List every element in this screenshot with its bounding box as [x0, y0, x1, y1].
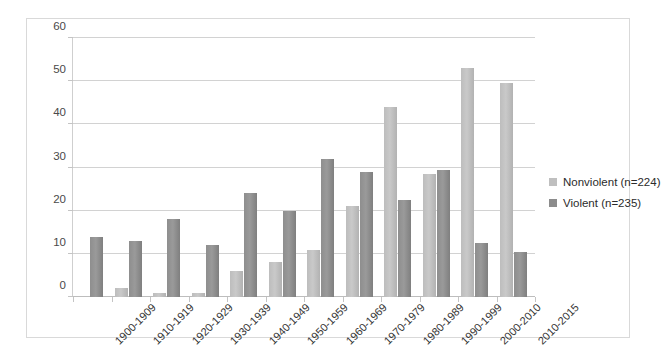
y-axis-tick-label: 60 [53, 20, 66, 32]
bar-nonviolent[interactable] [500, 83, 513, 297]
y-axis-tick-label: 0 [60, 279, 66, 291]
y-axis-tick-label: 20 [53, 193, 66, 205]
bar-violent[interactable] [437, 170, 450, 297]
y-axis-tick-label: 50 [53, 63, 66, 75]
chart-frame: 0102030405060 1900-19091910-19191920-192… [26, 18, 630, 338]
legend-item-label: Nonviolent (n=224) [563, 176, 661, 188]
x-axis-tick-label: 1970-1979 [382, 301, 428, 347]
bar-nonviolent[interactable] [230, 271, 243, 297]
legend-item[interactable]: Nonviolent (n=224) [549, 176, 661, 188]
bar-violent[interactable] [244, 193, 257, 297]
bar-nonviolent[interactable] [307, 250, 320, 297]
bar-violent[interactable] [360, 172, 373, 297]
y-axis-tick-label: 10 [53, 236, 66, 248]
bar-violent[interactable] [129, 241, 142, 297]
x-axis-tick-label: 1930-1939 [228, 301, 274, 347]
bar-nonviolent[interactable] [346, 206, 359, 297]
bar-nonviolent[interactable] [153, 293, 166, 297]
bar-group[interactable] [112, 38, 151, 297]
y-axis-tick-label: 40 [53, 106, 66, 118]
bar-group[interactable] [227, 38, 266, 297]
bar-violent[interactable] [167, 219, 180, 297]
x-axis-labels: 1900-19091910-19191920-19291930-19391940… [73, 301, 535, 358]
bars-layer [73, 38, 535, 297]
bar-group[interactable] [343, 38, 382, 297]
plot-area: 0102030405060 [73, 38, 535, 297]
legend-item-label: Violent (n=235) [563, 197, 641, 209]
bar-violent[interactable] [475, 243, 488, 297]
bar-group[interactable] [266, 38, 305, 297]
bar-violent[interactable] [206, 245, 219, 297]
bar-group[interactable] [458, 38, 497, 297]
legend-item[interactable]: Violent (n=235) [549, 197, 661, 209]
bar-violent[interactable] [90, 237, 103, 297]
bar-nonviolent[interactable] [192, 293, 205, 297]
bar-group[interactable] [189, 38, 228, 297]
x-axis-tick-label: 1910-1919 [151, 301, 197, 347]
x-axis-tick-label: 1990-1999 [459, 301, 505, 347]
chart-legend: Nonviolent (n=224)Violent (n=235) [549, 176, 661, 218]
bar-group[interactable] [150, 38, 189, 297]
bar-group[interactable] [497, 38, 536, 297]
legend-swatch-icon [549, 178, 557, 186]
bar-group[interactable] [73, 38, 112, 297]
bar-violent[interactable] [514, 252, 527, 297]
x-axis-tick-label: 2010-2015 [536, 301, 582, 347]
bar-nonviolent[interactable] [384, 107, 397, 297]
legend-swatch-icon [549, 199, 557, 207]
bar-nonviolent[interactable] [461, 68, 474, 297]
bar-violent[interactable] [283, 211, 296, 297]
bar-group[interactable] [304, 38, 343, 297]
bar-nonviolent[interactable] [269, 262, 282, 297]
bar-group[interactable] [381, 38, 420, 297]
bar-violent[interactable] [398, 200, 411, 297]
x-axis-tick-label: 1950-1959 [305, 301, 351, 347]
bar-group[interactable] [420, 38, 459, 297]
bar-nonviolent[interactable] [115, 288, 128, 297]
bar-nonviolent[interactable] [423, 174, 436, 297]
y-axis-tick-label: 30 [53, 150, 66, 162]
bar-violent[interactable] [321, 159, 334, 297]
